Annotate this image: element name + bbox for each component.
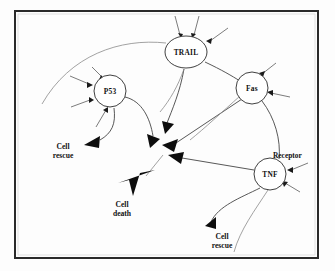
arrowhead-stimulus-p53-4 (103, 107, 108, 113)
outcome-cell-death-line2: death (113, 209, 132, 218)
node-trail[interactable]: TRAIL (165, 36, 207, 68)
arrowhead-p53-convergence (147, 134, 160, 148)
edge-tnf-cell-rescue (211, 188, 260, 222)
arrowhead-cell-death (118, 170, 155, 196)
outcome-cell-rescue-left-line2: rescue (53, 151, 74, 160)
node-tnf[interactable]: TNF (254, 158, 286, 190)
arrowhead-stimulus-p53-2 (87, 82, 93, 88)
stimulus-tnf-1 (291, 163, 308, 170)
outcome-cell-rescue-bottom-line1: Cell (215, 232, 228, 241)
stimulus-tnf-2 (285, 183, 300, 192)
arrowhead-p53-cell-rescue (84, 136, 100, 148)
stimulus-trail-1 (175, 16, 180, 35)
node-fas-label: Fas (246, 84, 258, 93)
arrowhead-stimulus-trail-3 (206, 38, 212, 44)
edge-strand-trail-down (160, 69, 184, 112)
outcome-cell-rescue-left: Cell rescue (53, 142, 74, 160)
arrowhead-tnf-cell-rescue (205, 217, 216, 229)
arrowhead-tnf-convergence (168, 152, 184, 164)
node-trail-label: TRAIL (174, 48, 199, 57)
stimulus-trail-2 (194, 16, 199, 35)
arrowhead-fas-convergence (162, 139, 178, 152)
stimulus-p53-3 (71, 100, 90, 107)
annotation-receptor-label: Receptor (273, 151, 302, 160)
edge-convergence-cell-death (146, 155, 163, 176)
node-tnf-label: TNF (262, 170, 278, 179)
arrowhead-stimulus-tnf-1 (287, 167, 293, 173)
edge-strand-tnf-down (234, 190, 268, 252)
stimulus-fas-2 (271, 93, 290, 97)
pathway-canvas: TRAIL P53 Fas TNF Cell rescue Cell death… (0, 0, 335, 271)
edge-p53-cell-rescue (100, 108, 114, 140)
node-p53-label: P53 (104, 87, 117, 96)
edge-fas-convergence (176, 99, 242, 143)
outcome-cell-death: Cell death (113, 200, 132, 218)
edge-trail-convergence (167, 69, 184, 123)
stimulus-p53-2 (70, 76, 89, 84)
stimulus-trail-3 (210, 28, 228, 41)
stimulus-p53-4 (96, 110, 106, 127)
arrowhead-trail-convergence (162, 121, 174, 134)
edge-trail-fas (205, 62, 240, 81)
outcome-cell-death-line1: Cell (115, 200, 128, 209)
stimulus-p53-1 (92, 67, 102, 77)
edge-tnf-convergence (182, 158, 254, 170)
node-p53[interactable]: P53 (94, 75, 126, 107)
edge-p53-convergence (125, 97, 153, 136)
pathway-diagram: TRAIL P53 Fas TNF Cell rescue Cell death… (0, 0, 335, 271)
outcome-cell-rescue-left-line1: Cell (56, 142, 69, 151)
outcome-cell-rescue-bottom: Cell rescue (212, 232, 233, 250)
node-fas[interactable]: Fas (236, 72, 268, 104)
outcome-cell-rescue-bottom-line2: rescue (212, 241, 233, 250)
edge-strand-fas-down (190, 96, 240, 140)
arrowhead-stimulus-p53-3 (89, 97, 94, 103)
